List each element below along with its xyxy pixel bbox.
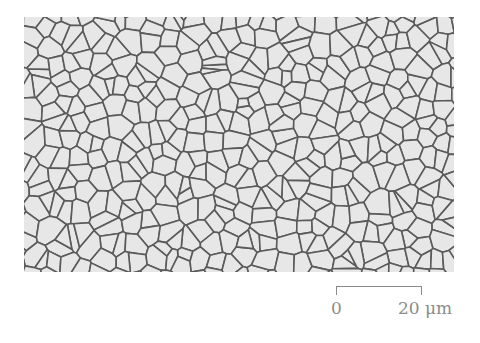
grain-boundaries (24, 17, 454, 272)
scale-bar-tick-start (336, 286, 337, 295)
scale-bar-tick-end (421, 286, 422, 295)
scale-bar-line (336, 286, 422, 287)
scale-label-start: 0 (331, 298, 342, 318)
scale-label-end: 20 μm (398, 298, 452, 318)
scale-bar (336, 286, 422, 298)
grain-micrograph (24, 17, 454, 272)
